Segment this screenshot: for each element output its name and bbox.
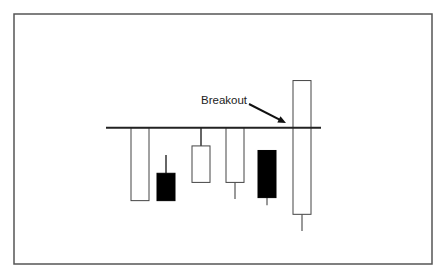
candle-5 [258, 150, 276, 205]
candle-2-body [157, 173, 175, 200]
candle-5-body [258, 150, 276, 197]
candle-4-body [226, 128, 244, 183]
candlestick-chart: Breakout [0, 0, 445, 277]
candle-6 [293, 81, 311, 231]
candle-6-body [293, 81, 311, 215]
candle-1 [131, 128, 149, 201]
breakout-annotation-label: Breakout [201, 94, 248, 106]
candle-1-body [131, 128, 149, 201]
candle-3-body [192, 146, 210, 182]
chart-frame [14, 14, 432, 264]
